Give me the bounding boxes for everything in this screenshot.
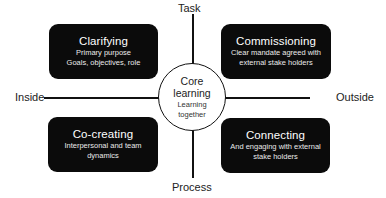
axis-label-outside: Outside: [336, 91, 374, 103]
quadrant-co-creating: Co-creating Interpersonal and team dynam…: [48, 117, 158, 172]
quadrant-title: Connecting: [246, 129, 305, 142]
axis-label-process: Process: [172, 181, 212, 193]
quadrant-title: Clarifying: [79, 35, 128, 48]
axis-label-task: Task: [178, 2, 201, 14]
core-title-line: learning: [173, 87, 210, 99]
quadrant-description-line: Clear mandate agreed with: [231, 48, 321, 58]
quadrant-title: Commissioning: [236, 35, 316, 48]
quadrant-description-line: And engaging with external: [230, 142, 320, 152]
quadrant-clarifying: Clarifying Primary purpose Goals, object…: [49, 24, 158, 79]
core-subtitle-line: together: [178, 110, 206, 120]
axis-label-inside: Inside: [15, 91, 44, 103]
quadrant-title: Co-creating: [73, 128, 134, 141]
quadrant-commissioning: Commissioning Clear mandate agreed with …: [221, 24, 331, 79]
quadrant-description-line: stake holders: [253, 152, 298, 162]
quadrant-description-line: Primary purpose: [76, 48, 131, 58]
quadrant-description-line: external stake holders: [239, 58, 312, 68]
core-learning-circle: Core learning Learning together: [158, 63, 226, 131]
quadrant-connecting: Connecting And engaging with external st…: [221, 118, 330, 173]
quadrant-description-line: dynamics: [87, 151, 119, 161]
quadrant-description-line: Interpersonal and team: [64, 141, 141, 151]
core-subtitle-line: Learning: [177, 100, 206, 110]
core-title-line: Core: [181, 75, 204, 87]
quadrant-description-line: Goals, objectives, role: [67, 58, 141, 68]
